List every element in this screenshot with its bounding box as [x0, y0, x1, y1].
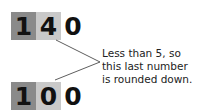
note-line: is rounded down. — [102, 73, 192, 86]
note-line: this last number — [102, 60, 192, 73]
note-line: Less than 5, so — [102, 47, 192, 60]
rounding-explanation: Less than 5, so this last number is roun… — [102, 47, 192, 86]
